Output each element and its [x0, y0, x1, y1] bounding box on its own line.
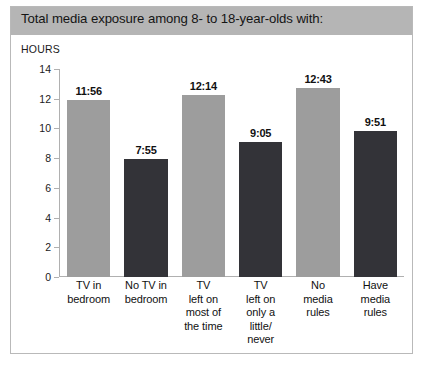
x-axis-label-line: Have [347, 279, 404, 293]
x-axis-label-line: TV in [60, 279, 117, 293]
bar-group: 11:56 [60, 69, 117, 277]
chart-title-bar: Total media exposure among 8- to 18-year… [11, 7, 412, 35]
x-axis-label-line: No TV in [117, 279, 174, 293]
page-title: Total media exposure among 8- to 18-year… [21, 11, 323, 26]
bar-group: 12:43 [289, 69, 346, 277]
x-axis-label-line: bedroom [117, 293, 174, 307]
bar-group: 9:05 [232, 69, 289, 277]
x-axis-label-line: No [289, 279, 346, 293]
y-axis-tick-mark [54, 188, 59, 189]
x-axis-category-label: TVleft ononly alittle/never [232, 279, 289, 347]
y-axis-tick-mark [54, 218, 59, 219]
x-axis-label-line: only a [232, 306, 289, 320]
y-axis-tick-label: 8 [33, 152, 51, 164]
x-axis-label-line: the time [175, 320, 232, 334]
y-axis-tick-mark [54, 247, 59, 248]
x-axis-label-line: bedroom [60, 293, 117, 307]
y-axis-tick-label: 2 [33, 241, 51, 253]
x-axis-label-line: left on [232, 293, 289, 307]
y-axis-tick-labels: 02468101214 [32, 69, 51, 277]
y-axis-tick-label: 6 [33, 182, 51, 194]
x-axis-label-line: rules [289, 306, 346, 320]
y-axis-tick-mark [54, 277, 59, 278]
chart-panel: Total media exposure among 8- to 18-year… [10, 6, 413, 354]
x-axis-label-line: never [232, 333, 289, 347]
y-axis-tick-mark [54, 158, 59, 159]
x-axis-category-labels: TV inbedroomNo TV inbedroomTVleft onmost… [60, 279, 404, 351]
x-axis-label-line: media [347, 293, 404, 307]
y-axis-tick-mark [54, 69, 59, 70]
bar [67, 100, 111, 277]
bar-value-label: 12:14 [175, 80, 232, 92]
x-axis-label-line: little/ [232, 320, 289, 334]
y-axis-tick-label: 10 [33, 122, 51, 134]
bar-group: 12:14 [175, 69, 232, 277]
bar-value-label: 7:55 [117, 144, 174, 156]
y-axis-tick-label: 4 [33, 212, 51, 224]
bar [182, 95, 226, 277]
bar-value-label: 11:56 [60, 85, 117, 97]
bar [124, 159, 168, 277]
y-axis-unit-label: HOURS [21, 43, 60, 55]
x-axis-label-line: media [289, 293, 346, 307]
x-axis-category-label: TV inbedroom [60, 279, 117, 306]
bar-series: 11:567:5512:149:0512:439:51 [60, 69, 404, 277]
y-axis-tick-mark [54, 99, 59, 100]
y-axis-tick-mark [54, 128, 59, 129]
plot-area: 02468101214 11:567:5512:149:0512:439:51 [32, 69, 404, 277]
bar-value-label: 12:43 [289, 73, 346, 85]
bar-group: 7:55 [117, 69, 174, 277]
x-axis-category-label: Havemediarules [347, 279, 404, 320]
bar [354, 131, 398, 277]
x-axis-category-label: Nomediarules [289, 279, 346, 320]
y-axis-tick-label: 14 [33, 63, 51, 75]
bar [296, 88, 340, 277]
x-axis-label-line: rules [347, 306, 404, 320]
x-axis-label-line: most of [175, 306, 232, 320]
x-axis-label-line: TV [175, 279, 232, 293]
bar [239, 142, 283, 277]
x-axis-category-label: No TV inbedroom [117, 279, 174, 306]
y-axis-tick-label: 0 [33, 271, 51, 283]
x-axis-label-line: TV [232, 279, 289, 293]
x-axis-category-label: TVleft onmost ofthe time [175, 279, 232, 333]
x-axis-label-line: left on [175, 293, 232, 307]
bar-value-label: 9:51 [347, 116, 404, 128]
y-axis-tick-label: 12 [33, 93, 51, 105]
bar-group: 9:51 [347, 69, 404, 277]
bar-value-label: 9:05 [232, 127, 289, 139]
